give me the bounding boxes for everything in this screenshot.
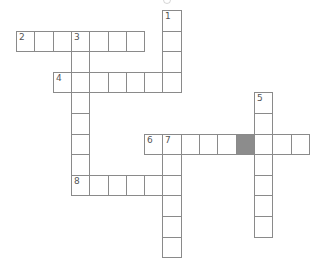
crossword-cell[interactable] — [162, 175, 182, 196]
crossword-cell[interactable] — [53, 31, 72, 52]
crossword-cell[interactable] — [71, 113, 90, 135]
crossword-cell[interactable] — [89, 175, 109, 196]
crossword-cell[interactable] — [162, 237, 182, 258]
crossword-cell[interactable] — [291, 134, 310, 155]
crossword-grid: 12384567 — [0, 0, 317, 263]
crossword-cell[interactable] — [34, 31, 54, 52]
crossword-cell[interactable] — [89, 72, 109, 93]
crossword-cell[interactable]: 6 — [144, 134, 163, 155]
crossword-cell[interactable] — [162, 72, 182, 93]
crossword-cell[interactable]: 8 — [71, 175, 90, 196]
partial-glyph — [163, 0, 171, 4]
crossword-cell[interactable] — [71, 134, 90, 155]
crossword-cell[interactable]: 3 — [71, 31, 90, 52]
crossword-cell[interactable] — [144, 175, 163, 196]
crossword-cell[interactable] — [162, 216, 182, 238]
crossword-cell[interactable] — [108, 31, 127, 52]
clue-number: 3 — [74, 32, 80, 43]
crossword-cell[interactable]: 1 — [162, 10, 182, 32]
crossword-cell[interactable]: 7 — [162, 134, 182, 155]
crossword-cell[interactable] — [254, 175, 273, 196]
clue-number: 2 — [19, 32, 25, 43]
crossword-cell[interactable] — [254, 216, 273, 238]
crossword-cell[interactable] — [89, 31, 109, 52]
crossword-cell[interactable] — [199, 134, 218, 155]
crossword-cell[interactable] — [254, 154, 273, 176]
clue-number: 5 — [257, 93, 263, 104]
crossword-cell[interactable] — [254, 195, 273, 217]
crossword-cell[interactable] — [162, 154, 182, 176]
clue-number: 7 — [165, 135, 171, 146]
crossword-cell[interactable] — [144, 72, 163, 93]
crossword-cell[interactable] — [126, 31, 145, 52]
crossword-cell[interactable] — [108, 72, 127, 93]
clue-number: 4 — [56, 73, 62, 84]
crossword-cell[interactable] — [71, 72, 90, 93]
crossword-cell[interactable] — [217, 134, 237, 155]
crossword-cell[interactable]: 4 — [53, 72, 72, 93]
crossword-cell[interactable] — [108, 175, 127, 196]
crossword-cell[interactable] — [71, 92, 90, 114]
crossword-cell[interactable] — [126, 175, 145, 196]
crossword-cell[interactable] — [162, 31, 182, 52]
crossword-cell[interactable] — [272, 134, 292, 155]
crossword-cell[interactable] — [162, 51, 182, 73]
crossword-cell[interactable] — [162, 195, 182, 217]
crossword-cell[interactable] — [181, 134, 200, 155]
crossword-cell[interactable] — [254, 113, 273, 135]
crossword-cell[interactable]: 5 — [254, 92, 273, 114]
crossword-cell[interactable] — [254, 134, 273, 155]
crossword-cell[interactable] — [126, 72, 145, 93]
crossword-cell[interactable] — [71, 154, 90, 176]
crossword-cell[interactable]: 2 — [16, 31, 35, 52]
black-square — [236, 134, 255, 155]
clue-number: 6 — [147, 135, 153, 146]
clue-number: 8 — [74, 176, 80, 187]
clue-number: 1 — [165, 11, 171, 22]
crossword-cell[interactable] — [71, 51, 90, 73]
